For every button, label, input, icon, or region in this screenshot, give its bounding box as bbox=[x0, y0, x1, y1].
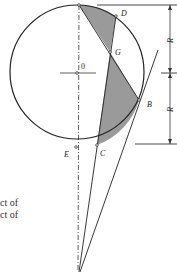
arrow-up-mid bbox=[168, 73, 172, 78]
label-E: E bbox=[63, 150, 69, 159]
shaded-region-upper bbox=[79, 5, 116, 52]
dimension-label-upper: R bbox=[166, 38, 175, 44]
point-G bbox=[109, 51, 112, 54]
center-axis-line bbox=[78, 5, 79, 272]
point-top bbox=[78, 4, 81, 7]
label-D: D bbox=[120, 9, 127, 18]
arrow-down-bottom bbox=[168, 139, 172, 144]
label-C: C bbox=[100, 149, 106, 158]
arrow-down-mid bbox=[168, 68, 172, 73]
label-G: G bbox=[115, 48, 121, 57]
point-D bbox=[115, 15, 118, 18]
arrow-up-top bbox=[168, 5, 172, 10]
geometry-diagram: D G 0 B C E R R bbox=[0, 0, 177, 272]
text-fragment-2: ct of bbox=[0, 209, 18, 220]
point-C bbox=[96, 144, 99, 147]
label-O: 0 bbox=[81, 62, 85, 71]
point-B bbox=[138, 99, 141, 102]
dimension-label-lower: R bbox=[166, 107, 175, 113]
point-O bbox=[76, 72, 79, 75]
label-B: B bbox=[147, 100, 152, 109]
text-fragment-1: ct of bbox=[0, 197, 18, 208]
point-E bbox=[75, 146, 78, 149]
